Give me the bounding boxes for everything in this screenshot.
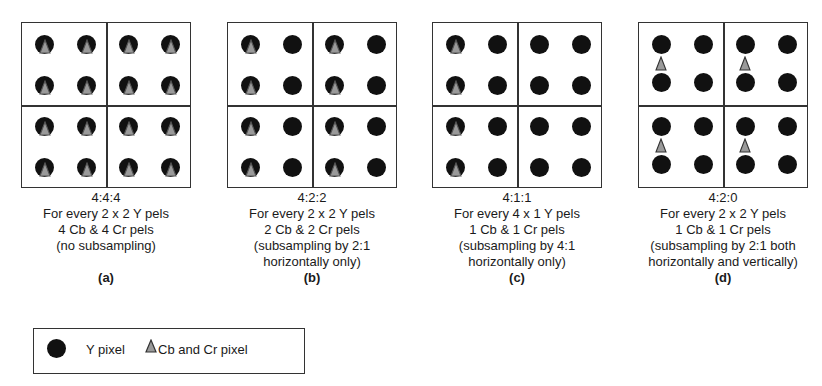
y-pixel-icon <box>47 339 66 358</box>
ratio-label: 4:2:0 <box>623 190 822 206</box>
pixel-grid-420 <box>638 22 808 188</box>
caption-line: (subsampling by 4:1 <box>417 238 617 254</box>
y-pixel-icon <box>694 117 713 136</box>
pixel-grid-411 <box>432 22 602 188</box>
grid-divider-horizontal <box>433 105 601 107</box>
y-pixel-icon <box>652 35 671 54</box>
y-pixel-icon <box>488 76 507 95</box>
panel-label: (d) <box>623 270 822 286</box>
y-pixel-icon <box>736 155 755 174</box>
legend-cbcr-label: Cb and Cr pixel <box>158 342 248 357</box>
y-pixel-icon <box>488 35 507 54</box>
y-pixel-icon <box>652 73 671 92</box>
y-pixel-icon <box>778 73 797 92</box>
y-pixel-icon <box>572 117 591 136</box>
y-pixel-icon <box>283 158 302 177</box>
caption-411: 4:1:1 For every 4 x 1 Y pels 1 Cb & 1 Cr… <box>417 190 617 286</box>
panel-label: (b) <box>212 270 412 286</box>
caption-line: 2 Cb & 2 Cr pels <box>212 222 412 238</box>
y-pixel-icon <box>736 35 755 54</box>
y-pixel-icon <box>736 73 755 92</box>
legend-y-label: Y pixel <box>86 342 125 357</box>
grid-divider-horizontal <box>22 105 190 107</box>
caption-line: horizontally and vertically) <box>623 254 822 270</box>
y-pixel-icon <box>694 155 713 174</box>
y-pixel-icon <box>778 117 797 136</box>
caption-444: 4:4:4 For every 2 x 2 Y pels 4 Cb & 4 Cr… <box>6 190 206 286</box>
y-pixel-icon <box>283 117 302 136</box>
y-pixel-icon <box>736 117 755 136</box>
panel-444 <box>21 22 191 188</box>
pixel-grid-422 <box>227 22 397 188</box>
legend: Y pixel Cb and Cr pixel <box>33 328 305 374</box>
ratio-label: 4:2:2 <box>212 190 412 206</box>
y-pixel-icon <box>488 158 507 177</box>
y-pixel-icon <box>652 155 671 174</box>
cbcr-pixel-icon <box>145 339 157 357</box>
y-pixel-icon <box>530 76 549 95</box>
caption-line: (subsampling by 2:1 both <box>623 238 822 254</box>
caption-line: horizontally only) <box>212 254 412 270</box>
y-pixel-icon <box>283 76 302 95</box>
y-pixel-icon <box>367 158 386 177</box>
caption-line: 1 Cb & 1 Cr pels <box>623 222 822 238</box>
y-pixel-icon <box>367 35 386 54</box>
y-pixel-icon <box>572 76 591 95</box>
grid-divider-horizontal <box>639 105 807 107</box>
panel-411 <box>432 22 602 188</box>
caption-line: 1 Cb & 1 Cr pels <box>417 222 617 238</box>
caption-line: horizontally only) <box>417 254 617 270</box>
y-pixel-icon <box>694 35 713 54</box>
panel-label: (a) <box>6 270 206 286</box>
y-pixel-icon <box>778 35 797 54</box>
caption-line: (no subsampling) <box>6 238 206 254</box>
caption-422: 4:2:2 For every 2 x 2 Y pels 2 Cb & 2 Cr… <box>212 190 412 286</box>
y-pixel-icon <box>530 35 549 54</box>
y-pixel-icon <box>778 155 797 174</box>
ratio-label: 4:4:4 <box>6 190 206 206</box>
y-pixel-icon <box>367 76 386 95</box>
panel-label: (c) <box>417 270 617 286</box>
caption-line: For every 2 x 2 Y pels <box>6 206 206 222</box>
y-pixel-icon <box>367 117 386 136</box>
caption-420: 4:2:0 For every 2 x 2 Y pels 1 Cb & 1 Cr… <box>623 190 822 286</box>
caption-line: (subsampling by 2:1 <box>212 238 412 254</box>
caption-line: 4 Cb & 4 Cr pels <box>6 222 206 238</box>
y-pixel-icon <box>283 35 302 54</box>
ratio-label: 4:1:1 <box>417 190 617 206</box>
y-pixel-icon <box>488 117 507 136</box>
caption-line: For every 4 x 1 Y pels <box>417 206 617 222</box>
y-pixel-icon <box>652 117 671 136</box>
panel-420 <box>638 22 808 188</box>
y-pixel-icon <box>530 158 549 177</box>
y-pixel-icon <box>572 158 591 177</box>
grid-divider-horizontal <box>228 105 396 107</box>
y-pixel-icon <box>694 73 713 92</box>
y-pixel-icon <box>530 117 549 136</box>
y-pixel-icon <box>572 35 591 54</box>
panel-422 <box>227 22 397 188</box>
caption-line: For every 2 x 2 Y pels <box>623 206 822 222</box>
caption-line: For every 2 x 2 Y pels <box>212 206 412 222</box>
pixel-grid-444 <box>21 22 191 188</box>
